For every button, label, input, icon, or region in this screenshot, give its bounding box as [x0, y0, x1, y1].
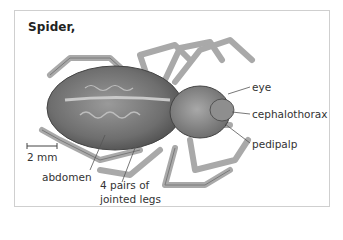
scale-bar-label: 2 mm — [27, 150, 57, 164]
label-legs-line1: 4 pairs of — [100, 178, 149, 192]
label-legs-line2: jointed legs — [100, 192, 161, 206]
label-pedipalp: pedipalp — [252, 137, 297, 151]
abdomen-shape — [47, 66, 183, 150]
figure-title: Spider, — [28, 20, 76, 34]
scale-bar — [27, 143, 57, 149]
label-abdomen: abdomen — [42, 170, 92, 184]
label-eye: eye — [252, 80, 271, 94]
label-cephalothorax: cephalothorax — [252, 107, 328, 121]
